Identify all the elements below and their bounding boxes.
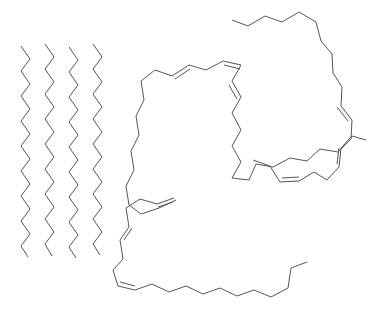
polyunsaturated-bottom-backbone (113, 198, 307, 297)
saturated-chain-3 (69, 47, 78, 258)
cis-double-bond-inner-mr-2 (337, 148, 339, 164)
polyunsaturated-large-backbone (126, 12, 352, 214)
cis-double-bond-inner-3 (175, 69, 190, 79)
diagram-canvas (0, 0, 379, 313)
cis-double-bond-inner-b-2 (124, 228, 132, 240)
saturated-chain-4 (93, 44, 102, 255)
cis-double-bond-inner-b-3 (120, 282, 135, 286)
cis-double-bond-inner-2 (224, 65, 240, 69)
saturated-chain-1 (21, 46, 30, 257)
polyunsaturated-large-group (126, 12, 352, 214)
fatty-acid-diagram (0, 0, 379, 313)
cis-double-bond-inner-4 (337, 107, 348, 121)
polyunsaturated-bottom-group (113, 198, 307, 297)
saturated-chain-group (21, 44, 102, 258)
saturated-chain-2 (45, 44, 54, 256)
cis-double-bond-inner-mr-1 (282, 177, 299, 178)
